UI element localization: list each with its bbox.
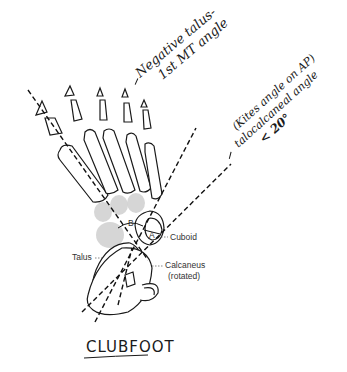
label-cuboid: Cuboid [170, 232, 197, 242]
metatarsals [58, 129, 162, 202]
proximal-phalanges [45, 100, 151, 135]
title-clubfoot: CLUBFOOT [86, 338, 175, 356]
marker-a: A [149, 230, 155, 240]
annotation-negative-talus: Negative talus- 1st MT angle [126, 3, 231, 98]
marker-b: B [128, 218, 134, 228]
diagram-title: CLUBFOOT [84, 338, 175, 358]
annotation-kites-angle: (Kites angle on AP) talocalcaneal angle … [212, 52, 337, 170]
clubfoot-diagram: B A Talus Cuboid Calcaneus (rotated) Neg… [0, 0, 347, 372]
label-talus: Talus [72, 252, 92, 262]
label-calcaneus-note: (rotated) [168, 271, 200, 281]
label-calcaneus: Calcaneus [165, 260, 205, 270]
calcaneus-bone [87, 248, 158, 315]
